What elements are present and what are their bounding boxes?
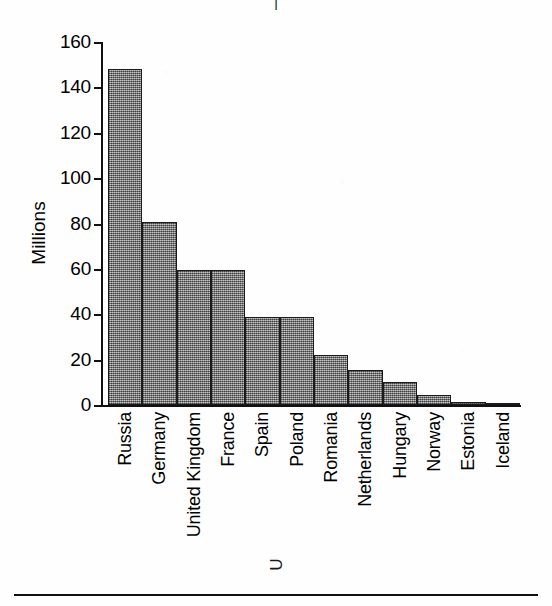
bar-france[interactable] <box>211 270 245 405</box>
y-tick-label-100: 100 <box>60 168 91 187</box>
y-tick-40 <box>94 314 101 316</box>
y-tick-0 <box>94 405 101 407</box>
bar-series <box>108 42 520 405</box>
y-axis-line <box>101 42 103 406</box>
clipped-title-fragment: | <box>0 0 552 10</box>
x-axis-line <box>101 405 521 407</box>
x-label-slot-4: Spain <box>245 412 279 562</box>
bar-russia[interactable] <box>108 69 142 405</box>
x-axis-label-spain: Spain <box>253 412 271 457</box>
x-label-slot-11: Iceland <box>486 412 520 562</box>
bar-germany[interactable] <box>142 222 176 405</box>
y-tick-label-120: 120 <box>60 123 91 142</box>
x-label-slot-7: Netherlands <box>348 412 382 562</box>
x-label-slot-3: France <box>211 412 245 562</box>
y-tick-label-60: 60 <box>70 259 91 278</box>
bar-spain[interactable] <box>245 317 279 405</box>
x-label-slot-1: Germany <box>142 412 176 562</box>
bar-norway[interactable] <box>417 395 451 405</box>
y-axis-title-label: Millions <box>29 201 48 264</box>
y-tick-100 <box>94 178 101 180</box>
x-axis-label-poland: Poland <box>288 412 306 467</box>
x-axis-label-russia: Russia <box>116 412 134 466</box>
y-tick-140 <box>94 87 101 89</box>
y-tick-80 <box>94 224 101 226</box>
x-axis-label-france: France <box>219 412 237 467</box>
x-axis-label-iceland: Iceland <box>494 412 512 469</box>
x-label-slot-2: United Kingdom <box>177 412 211 562</box>
bar-iceland[interactable] <box>486 403 520 405</box>
bar-netherlands[interactable] <box>348 370 382 405</box>
y-tick-label-140: 140 <box>60 77 91 96</box>
x-axis-label-norway: Norway <box>425 412 443 472</box>
x-label-slot-6: Romania <box>314 412 348 562</box>
bar-estonia[interactable] <box>451 402 485 405</box>
bar-chart-plot-area: 020406080100120140160 <box>101 42 521 405</box>
x-axis-label-netherlands: Netherlands <box>356 412 374 507</box>
x-axis-label-estonia: Estonia <box>459 412 477 471</box>
y-tick-20 <box>94 360 101 362</box>
x-axis-label-germany: Germany <box>150 412 168 485</box>
bar-united-kingdom[interactable] <box>177 270 211 405</box>
x-axis-label-romania: Romania <box>322 412 340 483</box>
x-label-slot-10: Estonia <box>451 412 485 562</box>
y-tick-label-160: 160 <box>60 32 91 51</box>
y-tick-label-0: 0 <box>81 395 91 414</box>
x-label-slot-5: Poland <box>280 412 314 562</box>
x-label-slot-9: Norway <box>417 412 451 562</box>
x-axis-category-labels: RussiaGermanyUnited KingdomFranceSpainPo… <box>108 412 520 562</box>
bottom-horizontal-rule <box>14 594 538 596</box>
y-tick-120 <box>94 133 101 135</box>
y-tick-label-40: 40 <box>70 304 91 323</box>
y-tick-160 <box>94 42 101 44</box>
y-tick-label-20: 20 <box>70 350 91 369</box>
clipped-label-descender: U <box>0 556 552 574</box>
y-tick-60 <box>94 269 101 271</box>
bar-romania[interactable] <box>314 355 348 405</box>
bar-poland[interactable] <box>280 317 314 405</box>
figure-canvas: | 020406080100120140160 Millions RussiaG… <box>0 0 552 606</box>
bar-hungary[interactable] <box>383 382 417 405</box>
x-label-slot-0: Russia <box>108 412 142 562</box>
x-axis-label-hungary: Hungary <box>391 412 409 479</box>
x-axis-label-united-kingdom: United Kingdom <box>185 412 203 537</box>
y-tick-label-80: 80 <box>70 214 91 233</box>
y-axis-title: Millions <box>26 178 50 288</box>
x-label-slot-8: Hungary <box>383 412 417 562</box>
